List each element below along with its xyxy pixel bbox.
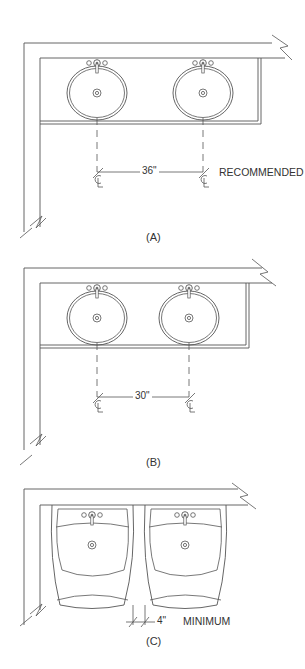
lavatory-spacing-drawing bbox=[0, 0, 305, 669]
oval-sink-icon bbox=[67, 60, 127, 120]
caption-a: (A) bbox=[146, 231, 161, 243]
centerline-icon bbox=[185, 393, 195, 412]
oval-sink-icon bbox=[159, 285, 219, 345]
dimension-label-b: 30" bbox=[133, 390, 152, 401]
dimension-label-a: 36" bbox=[140, 165, 159, 176]
dimension-label-c: 4" bbox=[155, 615, 168, 626]
diagram-c bbox=[20, 483, 256, 627]
note-recommended: RECOMMENDED bbox=[219, 166, 304, 178]
pedestal-sink-icon bbox=[144, 505, 226, 609]
countertop bbox=[40, 283, 246, 345]
break-line-icon bbox=[252, 259, 276, 286]
wall-outline bbox=[24, 43, 272, 232]
oval-sink-icon bbox=[67, 285, 127, 345]
caption-c: (C) bbox=[146, 635, 161, 647]
diagram-b bbox=[20, 259, 276, 465]
oval-sink-icon bbox=[173, 60, 233, 120]
centerline-icon bbox=[93, 168, 103, 187]
centerline-icon bbox=[93, 393, 103, 412]
centerline-icon bbox=[199, 168, 209, 187]
caption-b: (B) bbox=[146, 456, 161, 468]
break-line-icon bbox=[272, 35, 292, 60]
diagram-a bbox=[20, 35, 292, 238]
pedestal-sink-icon bbox=[51, 505, 133, 609]
note-minimum: MINIMUM bbox=[183, 615, 230, 627]
